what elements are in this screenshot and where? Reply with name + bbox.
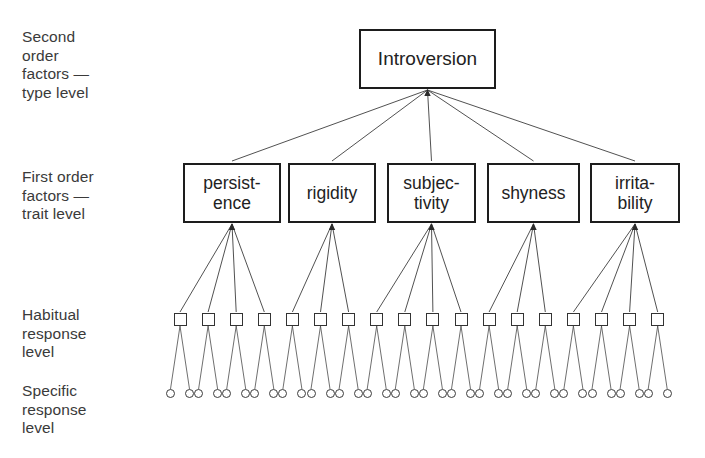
habitual-response-node[interactable] [314, 313, 327, 326]
specific-response-node[interactable] [354, 389, 363, 398]
specific-response-node[interactable] [335, 389, 344, 398]
habitual-response-node[interactable] [426, 313, 439, 326]
specific-response-node[interactable] [307, 389, 316, 398]
specific-response-node[interactable] [616, 389, 625, 398]
node-factor-rigidity[interactable]: rigidity [288, 163, 376, 223]
node-factor-persistence-label: persist- ence [201, 173, 262, 213]
habitual-response-node[interactable] [483, 313, 496, 326]
specific-response-node[interactable] [663, 389, 672, 398]
node-factor-subjectivity-label: subjec- tivity [401, 173, 461, 213]
connector-lines [0, 0, 705, 458]
habitual-response-node[interactable] [258, 313, 271, 326]
habitual-response-node[interactable] [286, 313, 299, 326]
node-factor-subjectivity[interactable]: subjec- tivity [387, 163, 476, 223]
node-factor-shyness[interactable]: shyness [487, 163, 580, 223]
specific-response-node[interactable] [382, 389, 391, 398]
specific-response-node[interactable] [391, 389, 400, 398]
specific-response-node[interactable] [363, 389, 372, 398]
node-factor-persistence[interactable]: persist- ence [183, 163, 281, 223]
specific-response-node[interactable] [419, 389, 428, 398]
node-factor-shyness-label: shyness [499, 183, 567, 203]
hierarchical-model-diagram: Second order factors — type level First … [0, 0, 705, 458]
specific-response-node[interactable] [438, 389, 447, 398]
habitual-response-node[interactable] [174, 313, 187, 326]
habitual-response-node[interactable] [539, 313, 552, 326]
habitual-response-node[interactable] [595, 313, 608, 326]
specific-response-node[interactable] [607, 389, 616, 398]
specific-response-node[interactable] [635, 389, 644, 398]
specific-response-node[interactable] [326, 389, 335, 398]
habitual-response-node[interactable] [342, 313, 355, 326]
node-factor-irritability-label: irrita- bility [613, 173, 657, 213]
specific-response-node[interactable] [466, 389, 475, 398]
habitual-response-node[interactable] [567, 313, 580, 326]
node-factor-irritability[interactable]: irrita- bility [590, 163, 680, 223]
specific-response-node[interactable] [166, 389, 175, 398]
habitual-response-node[interactable] [651, 313, 664, 326]
habitual-response-node[interactable] [511, 313, 524, 326]
habitual-response-node[interactable] [623, 313, 636, 326]
node-introversion[interactable]: Introversion [359, 29, 496, 89]
node-introversion-label: Introversion [376, 48, 479, 70]
habitual-response-node[interactable] [398, 313, 411, 326]
node-factor-rigidity-label: rigidity [305, 183, 360, 203]
specific-response-node[interactable] [447, 389, 456, 398]
habitual-response-node[interactable] [230, 313, 243, 326]
habitual-response-node[interactable] [455, 313, 468, 326]
habitual-response-node[interactable] [202, 313, 215, 326]
specific-response-node[interactable] [644, 389, 653, 398]
habitual-response-node[interactable] [370, 313, 383, 326]
specific-response-node[interactable] [410, 389, 419, 398]
specific-response-node[interactable] [185, 389, 194, 398]
specific-response-node[interactable] [588, 389, 597, 398]
